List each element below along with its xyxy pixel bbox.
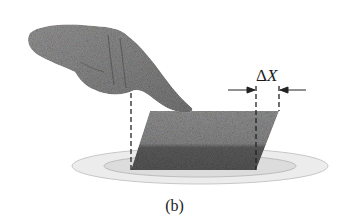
figure-caption: (b)	[0, 197, 349, 215]
sheared-block	[131, 111, 279, 170]
displacement-arrows	[228, 87, 306, 93]
shear-deformation-figure: ΔX (b)	[0, 0, 349, 224]
delta-x-label: ΔX	[256, 66, 277, 86]
arrow-left-icon	[280, 87, 288, 93]
arrow-right-icon	[247, 87, 255, 93]
pointing-hand-icon	[28, 24, 192, 112]
diagram-canvas	[0, 0, 349, 224]
